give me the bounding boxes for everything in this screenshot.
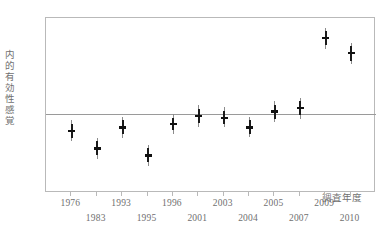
x-axis-tick-label: 2009 [314, 198, 334, 208]
x-axis-tick-mark [223, 192, 224, 196]
x-axis-tick-label: 1996 [162, 198, 182, 208]
x-axis-tick-mark [70, 192, 71, 196]
x-axis-tick-mark [299, 192, 300, 196]
point-estimate-marker [348, 52, 355, 55]
data-point [173, 18, 174, 193]
x-axis-tick-mark [121, 192, 122, 196]
point-estimate-marker [119, 126, 126, 129]
point-estimate-marker [68, 130, 75, 133]
point-estimate-marker [221, 117, 228, 120]
point-estimate-marker [271, 110, 278, 113]
x-axis-tick-label: 1976 [60, 198, 80, 208]
data-point [198, 18, 199, 193]
data-point [351, 18, 352, 193]
x-axis-tick-label: 2005 [264, 198, 284, 208]
data-point [274, 18, 275, 193]
x-axis-tick-label: 2003 [213, 198, 233, 208]
data-point [325, 18, 326, 193]
point-estimate-marker [195, 115, 202, 118]
data-point [148, 18, 149, 193]
chart-container: 内的有効性感覚 5.04.84.64.44.24.0 調査年度 19761983… [0, 0, 380, 236]
x-axis-tick-label: 2004 [238, 213, 258, 223]
data-point [224, 18, 225, 193]
x-axis-tick-label: 2001 [187, 213, 207, 223]
x-axis-tick-label: 1983 [86, 213, 106, 223]
x-axis-tick-label: 1995 [137, 213, 157, 223]
point-estimate-marker [145, 154, 152, 157]
y-axis: 5.04.84.64.44.24.0 [0, 0, 45, 236]
x-axis-tick-mark [324, 192, 325, 196]
point-estimate-marker [170, 123, 177, 126]
reference-line [46, 114, 376, 115]
point-estimate-marker [246, 126, 253, 129]
data-point [71, 18, 72, 193]
x-axis-tick-mark [147, 192, 148, 196]
x-axis-tick-mark [248, 192, 249, 196]
x-axis-tick-mark [350, 192, 351, 196]
x-axis-tick-label: 2010 [340, 213, 360, 223]
x-axis-tick-label: 1993 [111, 198, 131, 208]
x-axis-tick-mark [96, 192, 97, 196]
x-axis-tick-mark [172, 192, 173, 196]
data-point [122, 18, 123, 193]
plot-area: 調査年度 [45, 17, 375, 192]
x-axis-tick-label: 2007 [289, 213, 309, 223]
point-estimate-marker [94, 147, 101, 150]
data-point [300, 18, 301, 193]
point-estimate-marker [322, 37, 329, 40]
data-point [97, 18, 98, 193]
point-estimate-marker [297, 107, 304, 110]
x-axis-tick-mark [197, 192, 198, 196]
x-axis-tick-mark [273, 192, 274, 196]
data-point [249, 18, 250, 193]
